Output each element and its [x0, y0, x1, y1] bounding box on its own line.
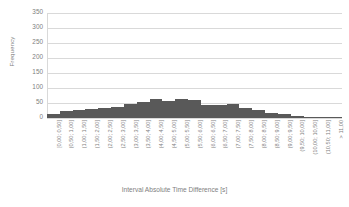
bar-cell	[47, 13, 60, 118]
y-axis-tick-labels: 050100150200250300350	[21, 7, 43, 124]
y-axis-title: Frequency	[8, 22, 15, 82]
x-axis-tick-cell: (1,50; 2,00]	[85, 120, 98, 178]
bar	[265, 113, 278, 118]
bar	[214, 105, 227, 118]
bar	[137, 102, 150, 118]
y-axis-tick-label: 300	[32, 23, 43, 31]
bar-cell	[111, 13, 124, 118]
x-axis-tick-cell: (3,00; 3,50]	[124, 120, 137, 178]
bar-cell	[239, 13, 252, 118]
y-axis-tick-label: 50	[36, 98, 43, 106]
bar-cell	[137, 13, 150, 118]
bar	[175, 99, 188, 118]
bar-cell	[162, 13, 175, 118]
x-axis-tick-cell: (1,00; 1,50]	[73, 120, 86, 178]
bar	[239, 108, 252, 118]
bar	[201, 105, 214, 118]
bar	[85, 109, 98, 118]
bar-cell	[278, 13, 291, 118]
x-axis-tick-cell: (0,50; 1,00]	[60, 120, 73, 178]
bar	[188, 100, 201, 118]
bar	[291, 116, 304, 118]
x-axis-tick-cell: (8,00; 8,50]	[252, 120, 265, 178]
x-axis-tick-cell: (2,50; 3,00]	[111, 120, 124, 178]
y-axis-tick-label: 250	[32, 38, 43, 46]
x-axis-tick-cell: (8,50; 9,00]	[265, 120, 278, 178]
bar-cell	[175, 13, 188, 118]
x-axis-tick-cell: (7,00; 7,50]	[227, 120, 240, 178]
y-axis-tick-label: 100	[32, 83, 43, 91]
bar-series	[47, 13, 342, 118]
plot-area	[47, 13, 342, 118]
histogram-chart: Frequency 050100150200250300350 [0,00; 0…	[0, 0, 349, 207]
bar-cell	[329, 13, 342, 118]
bar	[252, 110, 265, 118]
bar	[111, 107, 124, 118]
gridline	[47, 118, 342, 119]
bar	[278, 114, 291, 118]
bar	[227, 104, 240, 118]
bar-cell	[227, 13, 240, 118]
x-axis-tick-cell: (5,00; 5,50]	[175, 120, 188, 178]
bar-cell	[252, 13, 265, 118]
x-axis-tick-cell: > 11,00	[329, 120, 342, 178]
bar-cell	[98, 13, 111, 118]
x-axis-tick-cell: (9,50; 10,00]	[291, 120, 304, 178]
bar	[60, 111, 73, 118]
x-axis-tick-cell: (4,00; 4,50]	[150, 120, 163, 178]
bar-cell	[60, 13, 73, 118]
bar	[47, 114, 60, 118]
x-axis-title: Interval Absolute Time Difference [s]	[0, 186, 349, 193]
y-axis-tick-label: 350	[32, 8, 43, 16]
bar-cell	[304, 13, 317, 118]
x-axis-tick-cell: (10,50; 11,00]	[316, 120, 329, 178]
bar-cell	[124, 13, 137, 118]
bar-cell	[85, 13, 98, 118]
bar	[162, 101, 175, 118]
x-axis-tick-cell: (4,50; 5,00]	[162, 120, 175, 178]
x-axis-tick-labels: [0,00; 0,50](0,50; 1,00](1,00; 1,50](1,5…	[47, 120, 342, 178]
y-axis-tick-label: 0	[39, 113, 43, 121]
bar-cell	[73, 13, 86, 118]
x-axis-tick-cell: [0,00; 0,50]	[47, 120, 60, 178]
bar-cell	[316, 13, 329, 118]
x-axis-tick-cell: (6,00; 6,50]	[201, 120, 214, 178]
bar	[73, 110, 86, 118]
bar-cell	[265, 13, 278, 118]
bar	[98, 108, 111, 118]
x-axis-tick-cell: (9,00; 9,50]	[278, 120, 291, 178]
bar-cell	[214, 13, 227, 118]
x-axis-tick-cell: (6,50; 7,00]	[214, 120, 227, 178]
bar	[150, 99, 163, 118]
x-axis-tick-cell: (3,50; 4,00]	[137, 120, 150, 178]
bar	[124, 104, 137, 118]
bar-cell	[150, 13, 163, 118]
bar	[304, 117, 317, 119]
x-axis-tick-cell: (7,50; 8,00]	[239, 120, 252, 178]
y-axis-tick-label: 150	[32, 68, 43, 76]
x-axis-tick-cell: (2,00; 2,50]	[98, 120, 111, 178]
x-axis-tick-cell: (5,50; 6,00]	[188, 120, 201, 178]
bar-cell	[291, 13, 304, 118]
bar-cell	[201, 13, 214, 118]
x-axis-tick-label: > 11,00	[338, 120, 344, 138]
bar	[316, 117, 329, 118]
y-axis-tick-label: 200	[32, 53, 43, 61]
bar	[329, 117, 342, 118]
bar-cell	[188, 13, 201, 118]
x-axis-tick-cell: (10,00; 10,50]	[304, 120, 317, 178]
